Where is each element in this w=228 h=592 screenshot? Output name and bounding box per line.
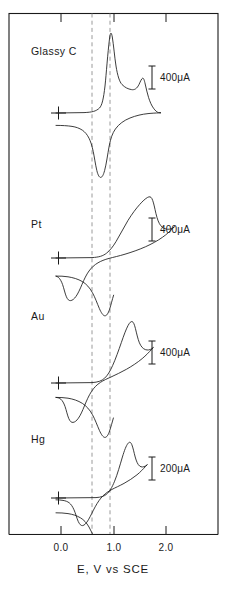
figure-container: Glassy C 400μA Pt 400μA <box>0 0 228 592</box>
axis-ticks-top <box>61 14 166 23</box>
scale-bar-pt <box>149 218 156 241</box>
trace-au-cathodic <box>56 397 113 437</box>
panel-label-glassy-c: Glassy C <box>31 45 77 57</box>
voltammogram-figure: Glassy C 400μA Pt 400μA <box>0 0 228 592</box>
scale-bar-au <box>149 341 156 364</box>
panel-label-hg: Hg <box>31 433 45 445</box>
panel-label-pt: Pt <box>31 218 42 230</box>
axis-ticks-bottom <box>61 526 166 535</box>
trace-pt-cathodic <box>56 276 114 316</box>
scale-bar-glassy-c <box>149 66 156 89</box>
tick-label-2: 2.0 <box>159 542 174 553</box>
panel-glassy-c: Glassy C 400μA <box>31 33 190 177</box>
panel-pt: Pt 400μA <box>31 197 190 316</box>
scale-label-pt: 400μA <box>160 224 190 235</box>
trace-hg <box>56 442 147 525</box>
scale-label-hg: 200μA <box>160 463 190 474</box>
scale-label-au: 400μA <box>160 347 190 358</box>
trace-au <box>56 322 153 423</box>
scale-bar-hg <box>149 457 156 480</box>
tick-label-0: 0.0 <box>54 542 69 553</box>
panel-hg: Hg 200μA <box>31 433 190 539</box>
trace-pt <box>56 197 175 301</box>
plot-frame <box>9 14 218 535</box>
panel-label-au: Au <box>31 310 45 322</box>
panel-au: Au 400μA <box>31 310 190 437</box>
tick-label-1: 1.0 <box>107 542 122 553</box>
x-axis-title: E, V vs SCE <box>77 563 149 575</box>
scale-label-glassy-c: 400μA <box>160 72 190 83</box>
